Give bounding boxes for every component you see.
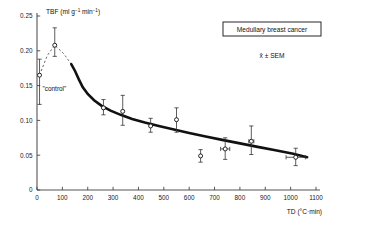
x-tick-label: 100 [57, 194, 68, 201]
x-tick-label: 1000 [284, 194, 299, 201]
data-marker [249, 139, 253, 143]
data-point-group [101, 100, 105, 115]
data-point-group [37, 59, 41, 104]
data-marker [101, 106, 105, 110]
x-tick-label: 400 [133, 194, 144, 201]
x-tick-label: 600 [184, 194, 195, 201]
data-curve-fitted-decay-solid [71, 64, 307, 157]
x-tick-label: 800 [235, 194, 246, 201]
y-tick-label: 0.20 [20, 47, 33, 54]
data-marker [149, 124, 153, 128]
data-point-group [249, 126, 254, 155]
x-tick-label: 0 [35, 194, 39, 201]
y-tick-label: 0.10 [20, 117, 33, 124]
tbf-vs-td-scatter-plot: 01002003004005006007008009001000110000.0… [0, 0, 374, 235]
y-tick-label: 0.25 [20, 12, 33, 19]
data-marker [175, 118, 179, 122]
data-marker [223, 147, 227, 151]
y-tick-label: 0.15 [20, 82, 33, 89]
x-tick-label: 700 [209, 194, 220, 201]
control-annotation: "control" [43, 85, 67, 92]
data-point-group [149, 118, 153, 132]
data-marker [53, 43, 57, 47]
x-tick-label: 200 [82, 194, 93, 201]
data-point-group [121, 95, 125, 125]
data-point-group [286, 148, 305, 165]
data-point-group [198, 150, 202, 163]
data-marker [294, 155, 298, 159]
y-axis-label: TBF (ml g−1 min−1) [46, 8, 100, 16]
mean-sem-annotation: x̄ ± SEM [260, 52, 285, 59]
title-box-label: Medullary breast cancer [237, 26, 308, 34]
data-marker [121, 109, 125, 113]
x-tick-label: 300 [108, 194, 119, 201]
x-tick-label: 900 [260, 194, 271, 201]
x-tick-label: 500 [158, 194, 169, 201]
data-point-group [53, 28, 57, 57]
x-axis-label: TD (°C·min) [287, 208, 322, 216]
y-tick-label: 0 [29, 186, 33, 193]
data-marker [199, 154, 203, 158]
data-marker [38, 73, 42, 77]
y-tick-label: 0.05 [20, 152, 33, 159]
chart-figure: 01002003004005006007008009001000110000.0… [0, 0, 374, 235]
x-tick-label: 1100 [309, 194, 323, 201]
data-curve-control-to-peak-dashed [40, 45, 72, 75]
